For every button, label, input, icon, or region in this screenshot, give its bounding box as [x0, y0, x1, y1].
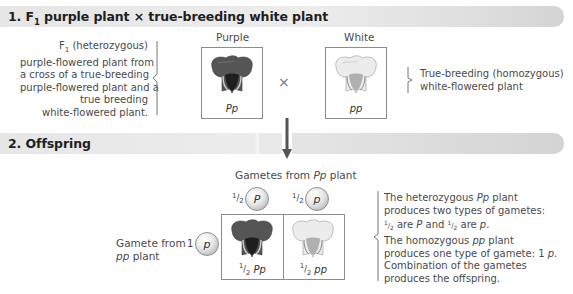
gamete-p-left: p: [195, 232, 219, 256]
punnett-square: 1/2 Pp 1/2 pp: [221, 214, 345, 280]
white-genotype: pp: [326, 103, 386, 114]
purple-plant-box: Pp: [201, 47, 263, 119]
band-fill: [292, 133, 313, 154]
gamete-fraction-P: 1/2: [232, 193, 244, 203]
left-brace-icon: [151, 40, 161, 116]
white-plant-box: pp: [325, 47, 387, 119]
cross-symbol: ×: [278, 74, 290, 90]
f1-description: F1 (heterozygous) purple-flowered plant …: [20, 40, 148, 119]
gamete-fraction-1: 1: [187, 238, 193, 251]
gametes-from-pp-header: Gametes from Pp plant: [235, 169, 357, 182]
gamete-from-pp-label: Gamete from pp plant: [116, 237, 186, 262]
offspring-cell-pp: 1/2 pp: [283, 215, 344, 279]
purple-flower-icon: [208, 53, 256, 95]
white-label: White: [344, 31, 375, 44]
section1-header-band: 1. F1 purple plant × true-breeding white…: [0, 6, 564, 27]
gamete-fraction-p: 1/2: [292, 193, 304, 203]
purple-genotype: Pp: [202, 103, 262, 114]
white-flower-icon: [332, 53, 380, 95]
purple-flower-icon: [228, 217, 276, 259]
section2-header-band: 2. Offspring: [0, 133, 564, 154]
section1-title: 1. F1 purple plant × true-breeding white…: [8, 9, 328, 27]
gamete-P: P: [245, 187, 269, 211]
offspring-cell-Pp: 1/2 Pp: [222, 215, 283, 279]
gamete-p-top: p: [305, 187, 329, 211]
white-plant-description: True-breeding (homozygous) white-flowere…: [420, 68, 564, 93]
right-brace-icon: [372, 190, 380, 282]
offspring-genotype-pp: 1/2 pp: [283, 263, 344, 277]
offspring-explanation: The heterozygous Pp plant produces two t…: [384, 192, 557, 285]
offspring-genotype-Pp: 1/2 Pp: [222, 263, 283, 277]
purple-label: Purple: [216, 31, 249, 44]
band-fill: [259, 133, 282, 154]
right-brace-icon: [406, 66, 414, 94]
section2-title: 2. Offspring: [8, 136, 91, 151]
white-flower-icon: [289, 217, 337, 259]
